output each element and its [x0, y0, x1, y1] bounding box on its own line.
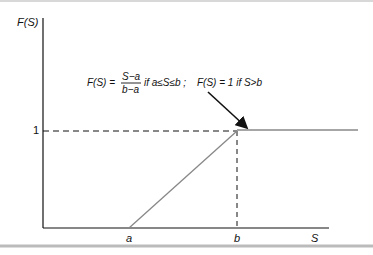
- x-axis-label: S: [311, 232, 319, 244]
- cdf-diagram: F(S) 1 a b S F(S) = S−a b−a if a≤S≤b ; F…: [0, 0, 373, 255]
- formula-denominator: b−a: [122, 84, 139, 95]
- formula-condition: if a≤S≤b ;: [144, 77, 186, 88]
- ramp-line: [129, 131, 237, 228]
- y-axis-label: F(S): [17, 16, 39, 28]
- formula-annotation: F(S) = S−a b−a if a≤S≤b ; F(S) = 1 if S>…: [87, 71, 262, 95]
- x-tick-b: b: [234, 232, 240, 244]
- annotation-arrow: [208, 92, 246, 127]
- x-tick-a: a: [126, 232, 132, 244]
- formula-second-part: F(S) = 1 if S>b: [197, 77, 262, 88]
- formula-numerator: S−a: [122, 71, 141, 82]
- formula-lhs: F(S) =: [87, 77, 115, 88]
- y-tick-one: 1: [33, 124, 39, 136]
